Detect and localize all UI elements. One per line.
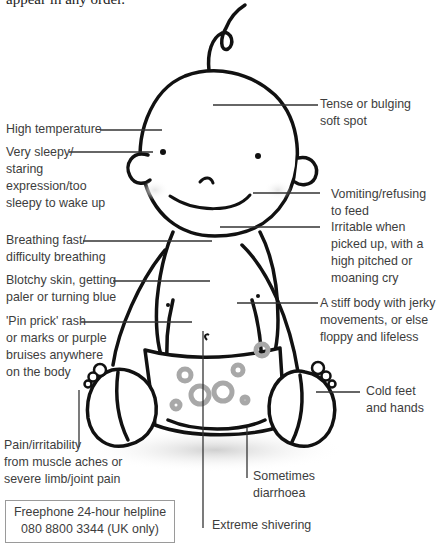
label-diarrhoea: Sometimes diarrhoea xyxy=(253,468,315,502)
helpline-box: Freephone 24-hour helpline 080 8800 3344… xyxy=(5,500,175,543)
label-very-sleepy: Very sleepy/ staring expression/too slee… xyxy=(6,144,105,212)
left-eye-icon xyxy=(160,149,166,155)
label-vomiting: Vomiting/refusing to feed xyxy=(331,186,426,220)
left-ear-icon xyxy=(128,154,150,183)
helpline-number: 080 8800 3344 (UK only) xyxy=(6,521,174,538)
hair-curl-icon xyxy=(209,5,245,71)
label-breathing: Breathing fast/ difficulty breathing xyxy=(6,232,106,266)
right-eye-icon xyxy=(255,153,261,159)
label-soft-spot: Tense or bulging soft spot xyxy=(320,96,411,130)
label-stiff-body: A stiff body with jerky movements, or el… xyxy=(320,295,435,346)
label-shivering: Extreme shivering xyxy=(212,517,311,534)
navel-icon xyxy=(205,334,209,340)
label-cold-feet: Cold feet and hands xyxy=(366,383,424,417)
label-irritable: Irritable when picked up, with a high pi… xyxy=(331,219,423,287)
right-ear-icon xyxy=(295,158,316,185)
label-blotchy-skin: Blotchy skin, getting paler or turning b… xyxy=(6,272,116,306)
label-pain: Pain/irritability from muscle aches or s… xyxy=(4,437,122,488)
label-pin-prick: 'Pin prick' rash or marks or purple brui… xyxy=(6,313,107,381)
helpline-title: Freephone 24-hour helpline xyxy=(6,504,174,521)
label-high-temperature: High temperature xyxy=(6,121,102,138)
